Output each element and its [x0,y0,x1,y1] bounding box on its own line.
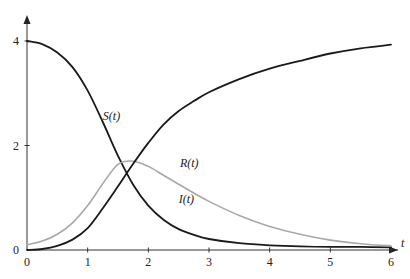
s-curve-label: S(t) [103,109,120,123]
x-axis-label: t [401,236,405,250]
x-tick-label: 0 [24,255,30,269]
sir-chart: 0123456024t S(t)R(t)I(t) [0,0,410,279]
s-curve [27,41,391,247]
x-tick-label: 6 [388,255,394,269]
axes: 0123456024t [13,15,405,269]
r-curve-label: R(t) [179,156,199,170]
r-curve [27,45,391,250]
i-curve-label: I(t) [178,192,194,206]
y-axis-arrow-icon [24,15,31,24]
labels: S(t)R(t)I(t) [103,109,199,206]
y-tick-label: 4 [13,34,19,48]
curves [27,41,391,250]
x-tick-label: 5 [327,255,333,269]
x-tick-label: 2 [145,255,151,269]
y-tick-label: 2 [13,139,19,153]
x-tick-label: 3 [206,255,212,269]
x-tick-label: 4 [267,255,273,269]
y-tick-label: 0 [13,243,19,257]
x-tick-label: 1 [85,255,91,269]
